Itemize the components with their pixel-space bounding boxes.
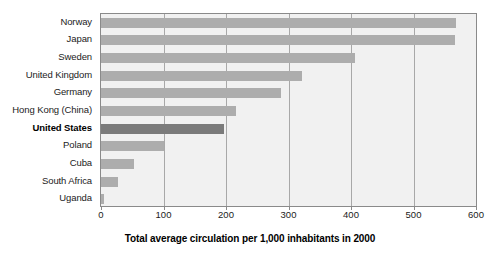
x-tick-label: 600 [456, 209, 496, 220]
plot-area [100, 13, 477, 207]
bar [101, 71, 302, 81]
category-label: Hong Kong (China) [0, 105, 92, 115]
category-label: Sweden [0, 52, 92, 62]
category-label: Germany [0, 87, 92, 97]
category-label: South Africa [0, 176, 92, 186]
category-axis: NorwayJapanSwedenUnited KingdomGermanyHo… [0, 13, 92, 207]
x-tick-label: 0 [81, 209, 121, 220]
bar [101, 88, 281, 98]
bar [101, 53, 355, 63]
x-tick-label: 100 [144, 209, 184, 220]
bar [101, 159, 134, 169]
bar [101, 18, 456, 28]
bar [101, 141, 164, 151]
bar [101, 35, 455, 45]
x-tick-label: 300 [269, 209, 309, 220]
category-label: Cuba [0, 158, 92, 168]
category-label: Japan [0, 34, 92, 44]
category-label: Uganda [0, 193, 92, 203]
bar [101, 177, 118, 187]
bar [101, 124, 224, 134]
category-label: United Kingdom [0, 70, 92, 80]
bar-chart: NorwayJapanSwedenUnited KingdomGermanyHo… [0, 0, 500, 254]
bar [101, 106, 236, 116]
x-tick-label: 200 [206, 209, 246, 220]
x-tick-label: 400 [331, 209, 371, 220]
category-label: United States [0, 123, 92, 133]
x-tick-label: 500 [394, 209, 434, 220]
x-axis-title: Total average circulation per 1,000 inha… [0, 233, 500, 244]
category-label: Norway [0, 17, 92, 27]
category-label: Poland [0, 140, 92, 150]
bar [101, 194, 104, 204]
